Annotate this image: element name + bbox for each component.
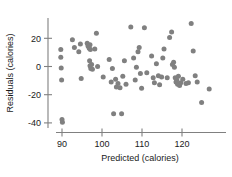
data-point <box>134 65 139 70</box>
data-point <box>195 80 200 85</box>
data-point <box>60 120 65 125</box>
data-point <box>157 82 162 87</box>
data-point <box>120 74 125 79</box>
y-tick-label: 20 <box>31 34 41 44</box>
data-point <box>207 87 212 92</box>
data-point <box>59 65 64 70</box>
data-point <box>171 60 176 65</box>
data-point <box>144 70 149 75</box>
data-point <box>92 46 97 51</box>
data-point <box>113 77 118 82</box>
residual-scatter-plot: 200-20-40 90100110120 Predicted (calorie… <box>0 0 232 177</box>
data-point <box>58 55 63 60</box>
x-tick-label: 110 <box>135 139 149 149</box>
axes-group <box>48 18 226 133</box>
data-point <box>94 31 99 36</box>
data-point <box>90 67 95 72</box>
data-point <box>88 47 93 52</box>
data-point <box>110 66 115 71</box>
data-point <box>180 77 185 82</box>
data-point <box>101 75 106 80</box>
data-point <box>119 111 124 116</box>
plot-canvas: 200-20-40 90100110120 Predicted (calorie… <box>0 0 232 177</box>
data-point <box>124 82 129 87</box>
y-tick-label: 0 <box>36 62 41 72</box>
x-axis-title: Predicted (calories) <box>101 153 179 163</box>
data-point <box>70 37 75 42</box>
data-point <box>199 100 204 105</box>
data-point <box>137 45 142 50</box>
x-tick-label: 100 <box>94 139 109 149</box>
data-point <box>107 57 112 62</box>
y-tick-label: -20 <box>28 90 41 100</box>
data-point <box>152 80 157 85</box>
data-point <box>151 75 156 80</box>
data-point <box>88 42 93 47</box>
data-point <box>136 49 141 54</box>
data-point <box>78 41 83 46</box>
y-tick-label: -40 <box>28 118 41 128</box>
data-point <box>128 25 133 30</box>
data-point <box>109 80 114 85</box>
data-point <box>172 65 177 70</box>
data-point <box>72 45 77 50</box>
data-point <box>160 56 165 61</box>
data-point <box>193 73 198 78</box>
data-point <box>89 62 94 67</box>
data-points-group <box>58 21 211 125</box>
data-point <box>58 47 63 52</box>
data-point <box>95 64 100 69</box>
data-point <box>189 21 194 26</box>
data-point <box>149 53 154 58</box>
data-point <box>142 25 147 30</box>
data-point <box>76 49 81 54</box>
data-point <box>118 85 123 90</box>
data-point <box>133 77 138 82</box>
y-axis-title: Residuals (calories) <box>5 33 15 112</box>
data-point <box>79 76 84 81</box>
x-tick-label: 90 <box>57 139 67 149</box>
data-point <box>159 75 164 80</box>
data-point <box>139 86 144 91</box>
x-tick-label: 120 <box>174 139 189 149</box>
data-point <box>186 80 191 85</box>
x-axis-ticks: 90100110120 <box>57 129 190 149</box>
data-point <box>138 71 143 76</box>
data-point <box>154 61 159 66</box>
data-point <box>59 77 64 82</box>
data-point <box>167 35 172 40</box>
data-point <box>169 29 174 34</box>
data-point <box>111 111 116 116</box>
data-point <box>165 75 170 80</box>
data-point <box>176 74 181 79</box>
data-point <box>191 48 196 53</box>
data-point <box>122 58 127 63</box>
data-point <box>162 46 167 51</box>
data-point <box>131 56 136 61</box>
